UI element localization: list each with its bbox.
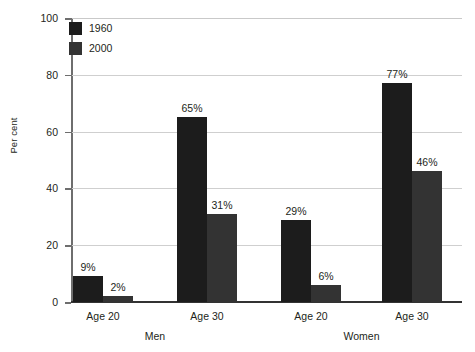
legend-item-2000: 2000 [69,42,112,55]
x-tick-label: Age 20 [63,310,143,322]
bar-value-label: 77% [374,69,420,80]
x-group-label-women: Women [317,330,407,342]
x-tick-label: Age 30 [372,310,452,322]
x-tick-label: Age 30 [167,310,247,322]
legend-swatch-1960 [69,22,82,35]
legend-label: 2000 [89,43,112,54]
bar-chart: Per cent 020406080100 9%65%29%77%2%31%6%… [0,0,475,352]
gridline [72,18,462,19]
y-tick-label: 0 [0,297,58,307]
bar-value-label: 31% [199,200,245,211]
x-group-label-men: Men [110,330,200,342]
y-tick-label: 60 [0,127,58,137]
x-tick-label: Age 20 [271,310,351,322]
bar-value-label: 46% [404,157,450,168]
legend-label: 1960 [89,23,112,34]
legend-item-1960: 1960 [69,22,112,35]
bar-value-label: 29% [273,206,319,217]
chart-legend: 19602000 [69,22,112,62]
plot-area: 9%65%29%77%2%31%6%46% [72,18,462,302]
bar-1960-age20-2 [281,220,311,302]
bar-1960-age30-3 [382,83,412,302]
bar-2000-age30-1 [207,214,237,302]
y-tick-label: 20 [0,240,58,250]
bar-value-label: 65% [169,103,215,114]
legend-swatch-2000 [69,42,82,55]
y-tick-label: 100 [0,13,58,23]
bar-2000-age20-0 [103,296,133,302]
y-tick-label: 80 [0,70,58,80]
bar-value-label: 9% [65,262,111,273]
bar-value-label: 6% [303,271,349,282]
bar-2000-age30-3 [412,171,442,302]
bar-2000-age20-2 [311,285,341,302]
bar-value-label: 2% [95,282,141,293]
y-tick-label: 40 [0,183,58,193]
